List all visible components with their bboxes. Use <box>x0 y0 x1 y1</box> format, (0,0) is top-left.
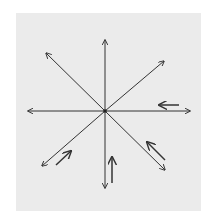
parallel-southeast-return-arrow <box>147 142 165 160</box>
axis-southwest-arrow <box>42 111 105 166</box>
radiating-axes <box>28 40 190 188</box>
vector-diagram <box>0 0 212 221</box>
parallel-southwest-return-arrow <box>56 151 71 165</box>
axis-northwest-arrow <box>46 53 105 111</box>
axis-northeast-arrow <box>105 61 164 111</box>
origin-point <box>103 109 107 113</box>
parallel-arrows <box>56 105 179 183</box>
axis-southeast-arrow <box>105 111 165 170</box>
